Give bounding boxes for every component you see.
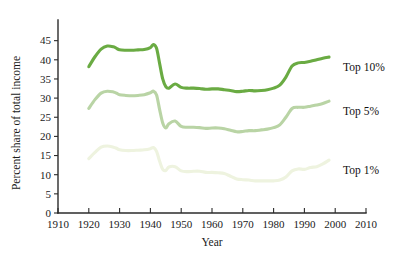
- y-tick-label: 0: [46, 207, 52, 219]
- series-label-top-10: Top 10%: [343, 61, 385, 74]
- y-axis-ticks: 051015202530354045: [40, 34, 58, 218]
- x-tick-label: 1970: [232, 218, 255, 230]
- chart-figure: 051015202530354045 191019201930194019501…: [0, 0, 397, 260]
- y-tick-label: 35: [40, 73, 52, 85]
- y-tick-label: 45: [40, 34, 52, 46]
- series-lines-group: [89, 44, 329, 180]
- y-tick-label: 15: [40, 149, 52, 161]
- y-tick-label: 5: [46, 188, 52, 200]
- x-tick-label: 1940: [139, 218, 162, 230]
- x-tick-label: 1910: [47, 218, 70, 230]
- series-line-top-10: [89, 44, 329, 91]
- x-tick-label: 1960: [201, 218, 224, 230]
- x-tick-label: 1980: [263, 218, 286, 230]
- x-tick-label: 1950: [170, 218, 193, 230]
- x-tick-label: 2010: [355, 218, 378, 230]
- series-line-top-5: [89, 91, 329, 132]
- y-tick-label: 10: [40, 169, 52, 181]
- y-tick-label: 30: [40, 92, 52, 104]
- series-label-top-5: Top 5%: [343, 105, 379, 118]
- x-tick-label: 1930: [109, 218, 132, 230]
- x-axis-ticks: 1910192019301940195019601970198019902000…: [47, 208, 378, 230]
- x-axis-title: Year: [201, 236, 222, 248]
- series-line-top-1: [89, 146, 329, 181]
- series-labels-group: Top 10%Top 5%Top 1%: [343, 61, 385, 177]
- y-axis-title: Percent share of total income: [10, 56, 22, 190]
- income-share-line-chart: 051015202530354045 191019201930194019501…: [0, 0, 397, 260]
- x-axis-group: 1910192019301940195019601970198019902000…: [47, 208, 378, 230]
- y-tick-label: 20: [40, 130, 52, 142]
- series-label-top-1: Top 1%: [343, 164, 379, 177]
- x-tick-label: 1920: [78, 218, 101, 230]
- y-axis-group: 051015202530354045: [40, 20, 58, 219]
- y-tick-label: 25: [40, 111, 52, 123]
- y-tick-label: 40: [40, 54, 52, 66]
- x-tick-label: 2000: [324, 218, 347, 230]
- x-tick-label: 1990: [293, 218, 316, 230]
